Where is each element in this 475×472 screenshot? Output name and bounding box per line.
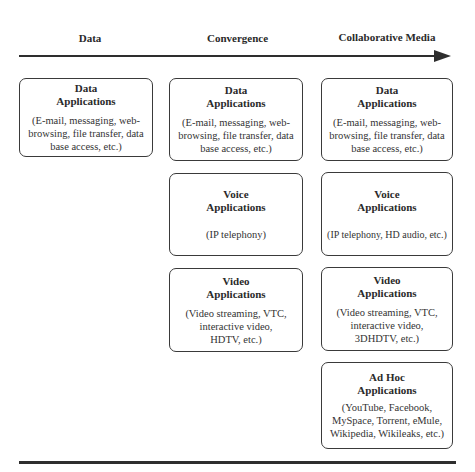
box-description: (YouTube, Facebook,MySpace, Torrent, eMu…: [330, 401, 444, 440]
box-convergence-data-applications: DataApplications (E-mail, messaging, web…: [169, 78, 303, 161]
box-title: DataApplications: [357, 84, 416, 110]
box-description: (IP telephony): [206, 228, 266, 241]
box-title: DataApplications: [206, 84, 265, 110]
box-collab-adhoc-applications: Ad HocApplications (YouTube, Facebook,My…: [321, 362, 453, 449]
box-title: VoiceApplications: [357, 188, 416, 214]
box-data-era-data-applications: DataApplications (E-mail, messaging, web…: [19, 78, 153, 157]
timeline-arrow-line: [19, 55, 437, 57]
box-convergence-voice-applications: VoiceApplications (IP telephony): [169, 173, 303, 256]
bottom-rule: [19, 461, 456, 464]
header-data: Data: [30, 32, 150, 44]
box-title: VoiceApplications: [206, 188, 265, 214]
box-description: (IP telephony, HD audio, etc.): [327, 228, 447, 241]
box-title: VideoApplications: [357, 274, 416, 300]
box-description: (Video streaming, VTC,interactive video,…: [336, 306, 437, 345]
header-convergence: Convergence: [175, 32, 300, 44]
box-collab-video-applications: VideoApplications (Video streaming, VTC,…: [321, 267, 453, 351]
box-description: (E-mail, messaging, web-browsing, file t…: [28, 114, 143, 153]
box-convergence-video-applications: VideoApplications (Video streaming, VTC,…: [169, 268, 303, 352]
box-description: (E-mail, messaging, web-browsing, file t…: [178, 116, 293, 155]
box-title: Ad HocApplications: [357, 371, 416, 397]
box-title: DataApplications: [56, 82, 115, 108]
arrow-head-icon: [434, 50, 451, 62]
header-collaborative-media: Collaborative Media: [318, 31, 456, 43]
box-description: (E-mail, messaging, web-browsing, file t…: [329, 116, 444, 155]
box-description: (Video streaming, VTC,interactive video,…: [185, 307, 286, 346]
box-collab-voice-applications: VoiceApplications (IP telephony, HD audi…: [321, 172, 453, 256]
box-collab-data-applications: DataApplications (E-mail, messaging, web…: [321, 78, 453, 161]
box-title: VideoApplications: [206, 275, 265, 301]
